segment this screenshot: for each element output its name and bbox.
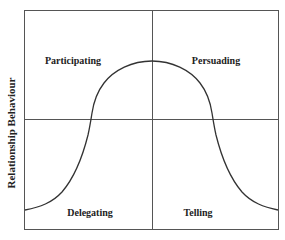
bell-curve (25, 61, 278, 210)
quadrant-label-telling: Telling (183, 207, 212, 218)
quadrant-label-delegating: Delegating (67, 207, 113, 218)
y-axis-label: Relationship Behaviour (5, 77, 17, 188)
situational-leadership-diagram: Participating Persuading Delegating Tell… (0, 0, 285, 240)
quadrant-label-participating: Participating (45, 55, 101, 66)
quadrant-label-persuading: Persuading (192, 55, 240, 66)
